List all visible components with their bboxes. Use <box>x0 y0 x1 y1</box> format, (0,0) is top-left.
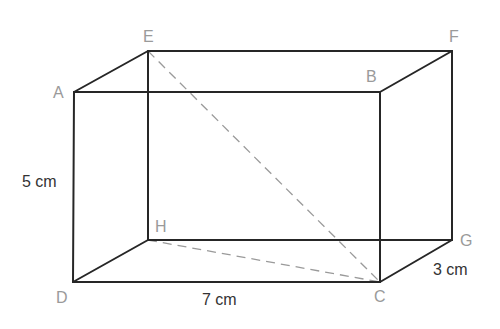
vertex-label-D: D <box>56 289 68 306</box>
diagonal-HC <box>148 240 380 282</box>
vertex-label-F: F <box>449 28 459 45</box>
vertex-label-E: E <box>143 28 154 45</box>
dimension-label-length: 7 cm <box>202 291 237 308</box>
edge-DH <box>73 240 148 282</box>
vertex-label-G: G <box>460 232 472 249</box>
vertex-label-H: H <box>155 218 167 235</box>
vertex-label-B: B <box>366 68 377 85</box>
dimension-label-height: 5 cm <box>22 173 57 190</box>
edge-DA <box>73 92 74 282</box>
cuboid-diagram: A E F B H G D C 5 cm 7 cm 3 cm <box>0 0 500 329</box>
diagonal-EC <box>148 51 380 282</box>
dimension-label-depth: 3 cm <box>433 261 468 278</box>
edge-AE <box>74 51 148 92</box>
vertex-label-A: A <box>53 84 64 101</box>
edge-BF <box>380 51 452 92</box>
vertex-label-C: C <box>374 288 386 305</box>
